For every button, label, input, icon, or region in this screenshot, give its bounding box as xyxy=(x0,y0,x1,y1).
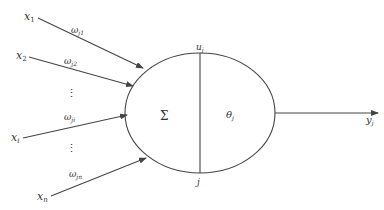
input-label-n: xn xyxy=(37,190,48,204)
input-line-n xyxy=(51,158,146,196)
input-line-1 xyxy=(38,18,143,68)
input-label-1: x1 xyxy=(24,10,35,24)
sum-symbol: Σ xyxy=(160,109,168,123)
weight-label-i: ωji xyxy=(64,112,75,124)
weight-label-n: ωjn xyxy=(69,169,82,181)
weight-label-2: ωj2 xyxy=(64,56,77,68)
threshold-label: θj xyxy=(226,109,234,122)
input-line-2 xyxy=(29,57,133,86)
ellipsis-lower: ⋮ xyxy=(66,142,77,155)
input-label-i: xi xyxy=(11,131,19,145)
ellipsis-upper: ⋮ xyxy=(66,87,77,100)
neuron-diagram: x1 x2 xi xn ωj1 ωj2 ωji ωjn ⋮ ⋮ Σ θj uj … xyxy=(0,0,384,210)
input-label-2: x2 xyxy=(16,49,27,63)
activation-label-top: uj xyxy=(196,42,204,54)
neuron-index-label: j xyxy=(195,177,200,187)
output-label: yj xyxy=(365,114,374,127)
